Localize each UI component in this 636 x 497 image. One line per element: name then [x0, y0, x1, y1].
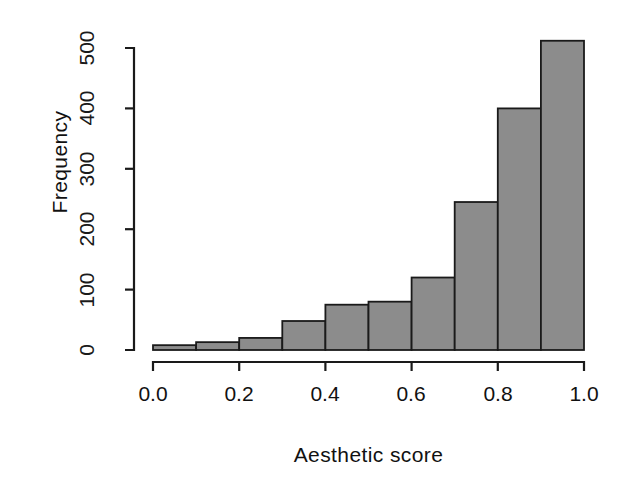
histogram-bar [455, 202, 498, 350]
histogram-bar [369, 302, 412, 350]
histogram-figure: Frequency Aesthetic score 0 100 200 300 … [0, 0, 636, 497]
x-axis-line [153, 362, 584, 371]
histogram-bar [541, 41, 584, 350]
histogram-bar [325, 305, 368, 350]
histogram-bar [153, 345, 196, 350]
histogram-bar [412, 278, 455, 350]
histogram-bar [239, 338, 282, 350]
histogram-bar [282, 321, 325, 350]
histogram-bars [153, 41, 584, 350]
histogram-bar [196, 342, 239, 350]
histogram-bar [498, 108, 541, 350]
y-axis-ticks [125, 108, 134, 289]
y-axis-line [125, 48, 134, 350]
plot-area [0, 0, 636, 497]
x-axis-ticks [239, 362, 498, 371]
